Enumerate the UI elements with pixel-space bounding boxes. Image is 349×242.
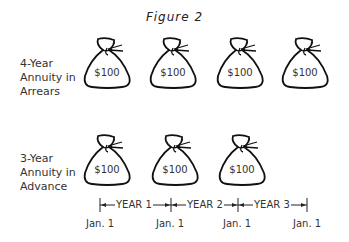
period-year-1: YEAR 1 bbox=[115, 199, 153, 210]
period-year-3: YEAR 3 bbox=[253, 199, 291, 210]
date-label: Jan. 1 bbox=[293, 218, 321, 229]
period-year-2: YEAR 2 bbox=[186, 199, 224, 210]
date-label: Jan. 1 bbox=[223, 218, 251, 229]
date-label: Jan. 1 bbox=[156, 218, 184, 229]
date-label: Jan. 1 bbox=[86, 218, 114, 229]
timeline-axis bbox=[0, 0, 349, 242]
